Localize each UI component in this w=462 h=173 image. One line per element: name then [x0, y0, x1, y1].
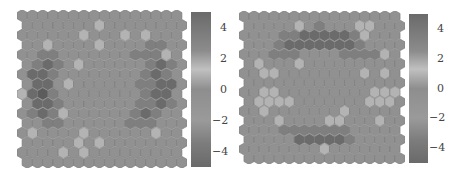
left-hex-grid — [17, 10, 187, 168]
colorbar-tick-label: 4 — [220, 22, 227, 33]
right-heatmap — [239, 11, 405, 164]
right-hex-grid — [239, 11, 405, 164]
colorbar-tick-label: 2 — [437, 53, 444, 64]
colorbar-tick-label: 2 — [220, 53, 227, 64]
right-colorbar-gradient — [409, 14, 428, 163]
colorbar-tick-label: −4 — [429, 142, 445, 153]
colorbar-tick-label: −2 — [429, 112, 445, 123]
left-heatmap — [17, 10, 187, 168]
left-colorbar — [191, 12, 211, 167]
right-colorbar — [409, 14, 428, 163]
colorbar-tick-label: 0 — [220, 84, 227, 95]
colorbar-tick-label: 0 — [437, 83, 444, 94]
colorbar-tick-label: 4 — [437, 23, 444, 34]
colorbar-tick-label: −4 — [212, 146, 228, 157]
colorbar-tick-label: −2 — [212, 115, 228, 126]
left-colorbar-gradient — [191, 12, 211, 167]
